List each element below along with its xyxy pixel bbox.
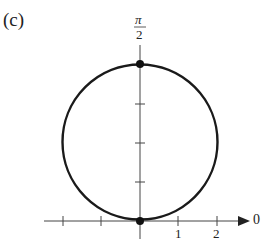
- axis-arrow-icon: [238, 216, 250, 226]
- polar-plot: [0, 0, 265, 239]
- point-top: [136, 60, 144, 68]
- tick-label-2: 2: [213, 226, 220, 239]
- polar-axis-label: 0: [253, 212, 260, 228]
- vertical-axis-label-numerator: π: [135, 12, 142, 28]
- tick-label-1: 1: [175, 226, 182, 239]
- point-pole: [136, 217, 144, 225]
- vertical-axis-label-denominator: 2: [136, 27, 143, 43]
